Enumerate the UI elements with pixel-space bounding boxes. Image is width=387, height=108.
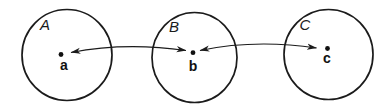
point-b-dot [191,50,196,55]
arrow-b-c [200,44,317,50]
label-circle-A: A [39,16,50,33]
label-circle-C: C [300,16,311,33]
label-point-b: b [189,58,198,74]
arrow-a-b [71,47,186,53]
circle-A [22,10,112,101]
figure: A B C a b c [0,0,387,108]
label-point-c: c [323,50,331,66]
set-diagram-canvas: A B C a b c [0,0,387,108]
label-point-a: a [60,57,68,73]
label-circle-B: B [169,18,179,35]
